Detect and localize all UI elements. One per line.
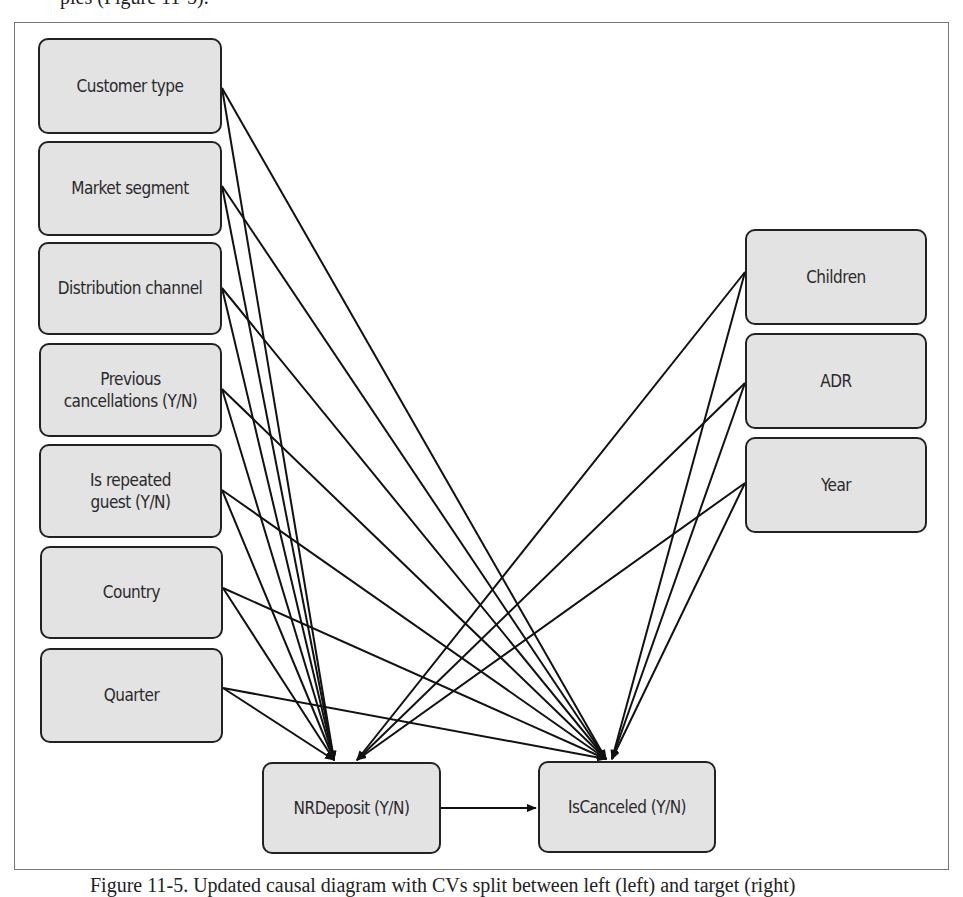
node-market-segment: Market segment — [38, 141, 222, 236]
node-label: Is repeated guest (Y/N) — [76, 469, 186, 513]
node-iscanceled: IsCanceled (Y/N) — [538, 761, 716, 853]
node-adr: ADR — [745, 333, 927, 429]
node-label: NRDeposit (Y/N) — [294, 797, 410, 819]
node-year: Year — [745, 437, 927, 533]
edge-distribution_channel-to-nrdeposit — [222, 288, 334, 760]
edge-children-to-nrdeposit — [357, 272, 745, 760]
node-label: IsCanceled (Y/N) — [568, 796, 686, 818]
node-children: Children — [745, 229, 927, 325]
edge-adr-to-iscanceled — [612, 383, 745, 759]
node-label: Quarter — [104, 684, 160, 706]
edge-year-to-iscanceled — [612, 483, 745, 759]
node-previous-cancellations: Previous cancellations (Y/N) — [39, 343, 222, 437]
node-label: Country — [103, 581, 160, 603]
node-nrdeposit: NRDeposit (Y/N) — [262, 762, 441, 854]
node-country: Country — [40, 546, 223, 639]
node-label: Market segment — [71, 177, 188, 199]
edge-is_repeated_guest-to-nrdeposit — [222, 490, 334, 760]
edge-children-to-iscanceled — [612, 272, 745, 759]
node-is-repeated-guest: Is repeated guest (Y/N) — [39, 444, 222, 538]
edge-customer_type-to-nrdeposit — [222, 88, 334, 760]
node-label: Children — [806, 266, 866, 288]
node-label: Customer type — [77, 75, 184, 97]
node-distribution-channel: Distribution channel — [38, 242, 222, 335]
edge-adr-to-nrdeposit — [357, 383, 745, 760]
node-label: Distribution channel — [58, 277, 203, 299]
node-quarter: Quarter — [40, 648, 223, 743]
node-customer-type: Customer type — [38, 38, 222, 134]
edge-previous_cancellations-to-nrdeposit — [222, 389, 334, 760]
node-label: ADR — [820, 370, 851, 392]
edge-quarter-to-iscanceled — [223, 688, 606, 759]
edge-customer_type-to-iscanceled — [222, 88, 606, 759]
figure-caption: Figure 11-5. Updated causal diagram with… — [90, 874, 795, 897]
node-label: Year — [821, 474, 851, 496]
node-label: Previous cancellations (Y/N) — [56, 368, 206, 412]
